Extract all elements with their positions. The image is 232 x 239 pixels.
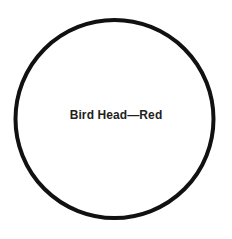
figure-canvas: Bird Head—Red (0, 0, 232, 239)
circle-diagram (0, 0, 232, 239)
circle-outline-shape (16, 20, 214, 218)
